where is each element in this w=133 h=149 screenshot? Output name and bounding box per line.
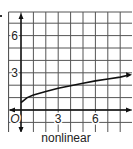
chart-caption: nonlinear bbox=[0, 131, 132, 145]
tick-labels: 3636O bbox=[10, 29, 99, 126]
curve-line bbox=[21, 75, 128, 102]
y-tick-label-6: 6 bbox=[11, 29, 18, 43]
x-tick-label-6: 6 bbox=[92, 112, 99, 126]
grid bbox=[9, 12, 133, 132]
origin-label: O bbox=[10, 112, 19, 126]
x-tick-label-3: 3 bbox=[55, 112, 62, 126]
graph: 3636O bbox=[0, 0, 132, 132]
y-tick-label-3: 3 bbox=[11, 66, 18, 80]
